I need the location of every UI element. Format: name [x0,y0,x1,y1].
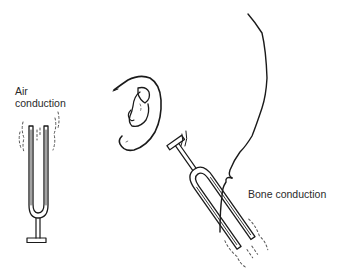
diagram-drawing [0,0,346,271]
air-conduction-tuning-fork [19,112,59,243]
diagram-canvas: Air conduction Bone conduction [0,0,346,271]
air-label-line1: Air [15,86,66,98]
air-label-line2: conduction [15,98,66,110]
ear [113,76,161,150]
air-conduction-label: Air conduction [15,86,66,109]
bone-conduction-label: Bone conduction [248,189,326,201]
